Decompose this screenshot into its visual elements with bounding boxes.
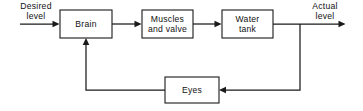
block-water-tank-label-line2: tank <box>239 24 257 34</box>
label-actual-level-line2: level <box>316 11 335 21</box>
label-desired-level: Desired level <box>20 1 51 21</box>
block-eyes[interactable]: Eyes <box>165 77 219 103</box>
block-muscles-and-valve-label-line1: Muscles <box>151 14 184 24</box>
block-water-tank-label-line1: Water <box>236 14 260 24</box>
connector-eyes-to-brain-feedback <box>83 38 165 90</box>
block-eyes-label: Eyes <box>182 85 202 95</box>
arrowhead-muscles-to-tank <box>215 21 222 28</box>
arrowhead-output <box>339 21 346 28</box>
block-muscles-and-valve[interactable]: Muscles and valve <box>142 10 193 38</box>
arrowhead-input-to-brain <box>53 21 60 28</box>
label-actual-level-line1: Actual <box>312 1 337 11</box>
block-brain[interactable]: Brain <box>60 10 112 38</box>
arrowhead-brain-to-muscles <box>135 21 142 28</box>
label-desired-level-line1: Desired <box>20 1 51 11</box>
connector-tank-to-output <box>273 21 346 28</box>
label-actual-level: Actual level <box>312 1 337 21</box>
block-diagram-svg: Brain Muscles and valve Water tank Eyes … <box>0 0 363 111</box>
block-brain-label: Brain <box>75 19 96 29</box>
label-desired-level-line2: level <box>27 11 46 21</box>
arrowhead-into-brain <box>83 38 90 45</box>
block-muscles-and-valve-label-line2: and valve <box>148 24 187 34</box>
connector-muscles-to-tank <box>193 21 222 28</box>
connector-brain-to-muscles <box>112 21 142 28</box>
connector-input-to-brain <box>20 21 60 28</box>
block-diagram-canvas: Brain Muscles and valve Water tank Eyes … <box>0 0 363 111</box>
arrowhead-into-eyes <box>219 87 226 94</box>
block-water-tank[interactable]: Water tank <box>222 10 273 38</box>
